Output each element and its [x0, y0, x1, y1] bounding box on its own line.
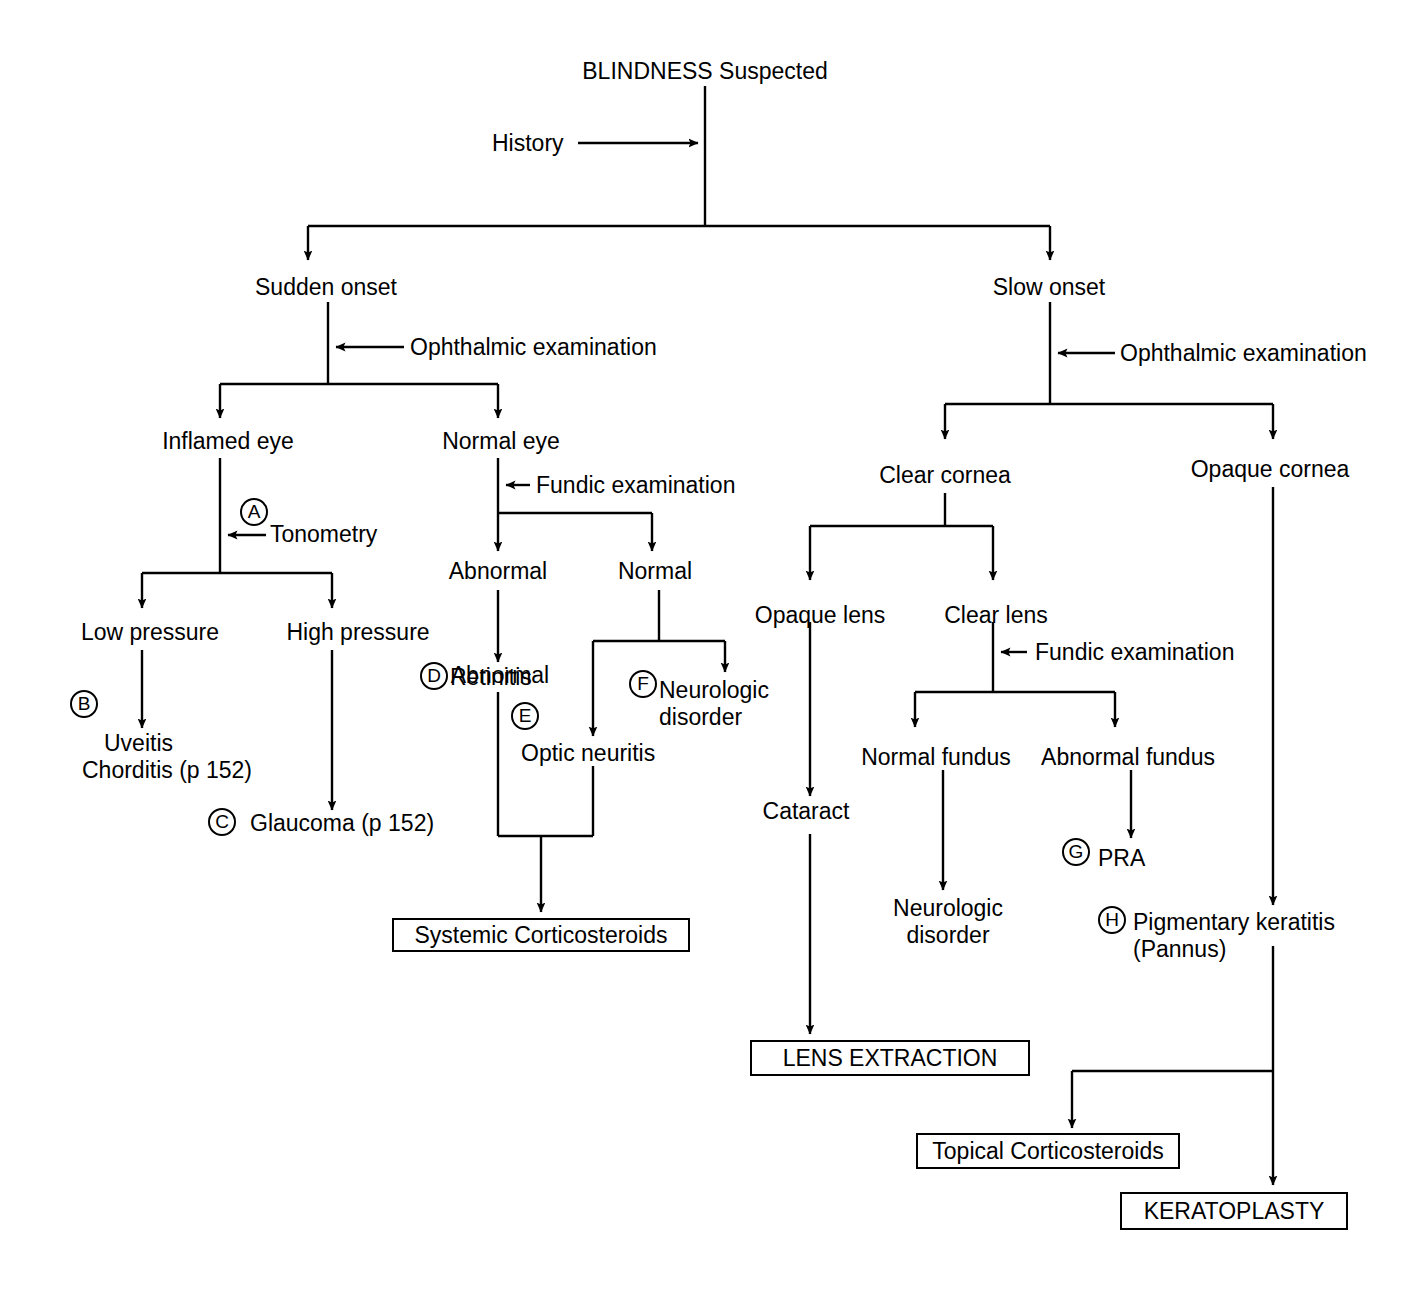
terminal-keratoplasty: KERATOPLASTY [1120, 1192, 1348, 1230]
node-pra: PRA [1098, 845, 1145, 872]
node-ophthalmic-examination-left: Ophthalmic examination [410, 334, 657, 361]
node-abnormal-upper: Abnormal [449, 558, 547, 585]
node-glaucoma: Glaucoma (p 152) [250, 810, 434, 837]
node-normal-fundus: Normal fundus [861, 744, 1011, 771]
terminal-lens-extraction: LENS EXTRACTION [750, 1040, 1030, 1076]
node-retinitis: Retinitis [450, 664, 532, 691]
terminal-topical-corticosteroids: Topical Corticosteroids [916, 1133, 1180, 1169]
node-fundic-examination-left: Fundic examination [536, 472, 735, 499]
node-fundic-examination-right: Fundic examination [1035, 639, 1234, 666]
terminal-systemic-corticosteroids: Systemic Corticosteroids [392, 918, 690, 952]
marker-a: A [240, 498, 268, 526]
node-uveitis-line1: Uveitis [104, 730, 173, 757]
node-optic-neuritis: Optic neuritis [521, 740, 655, 767]
marker-d: D [420, 662, 448, 690]
node-pigmentary-keratitis-line2: (Pannus) [1133, 936, 1226, 963]
node-neurologic-disorder-left-line1: Neurologic [659, 677, 769, 704]
node-pigmentary-keratitis-line1: Pigmentary keratitis [1133, 909, 1335, 936]
node-history-label: History [492, 130, 564, 157]
node-normal-eye: Normal eye [442, 428, 560, 455]
node-ophthalmic-examination-right: Ophthalmic examination [1120, 340, 1367, 367]
node-root-title: BLINDNESS Suspected [582, 58, 827, 85]
node-clear-cornea: Clear cornea [879, 462, 1011, 489]
node-slow-onset: Slow onset [993, 274, 1106, 301]
node-opaque-cornea: Opaque cornea [1191, 456, 1350, 483]
node-inflamed-eye: Inflamed eye [162, 428, 294, 455]
flowchart-canvas: BLINDNESS Suspected History Sudden onset… [0, 0, 1416, 1297]
node-cataract: Cataract [763, 798, 850, 825]
marker-e: E [511, 702, 539, 730]
node-abnormal-fundus: Abnormal fundus [1041, 744, 1215, 771]
marker-b: B [70, 690, 98, 718]
node-opaque-lens: Opaque lens [755, 602, 885, 629]
node-neurologic-disorder-right-line2: disorder [906, 922, 989, 949]
node-tonometry: Tonometry [270, 521, 377, 548]
node-low-pressure: Low pressure [81, 619, 219, 646]
node-normal: Normal [618, 558, 692, 585]
node-neurologic-disorder-right-line1: Neurologic [893, 895, 1003, 922]
node-sudden-onset: Sudden onset [255, 274, 397, 301]
marker-f: F [629, 670, 657, 698]
marker-h: H [1098, 906, 1126, 934]
node-uveitis-line2: Chorditis (p 152) [82, 757, 252, 784]
marker-c: C [208, 808, 236, 836]
node-clear-lens: Clear lens [944, 602, 1048, 629]
node-neurologic-disorder-left-line2: disorder [659, 704, 742, 731]
marker-g: G [1062, 838, 1090, 866]
node-high-pressure: High pressure [286, 619, 429, 646]
